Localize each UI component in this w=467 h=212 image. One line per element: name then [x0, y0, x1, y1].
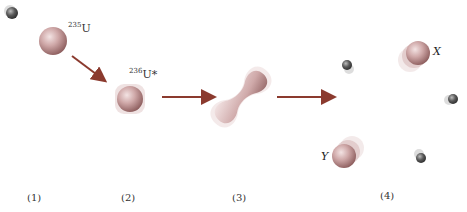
fragment-x-label: X — [433, 45, 441, 58]
u236-excited-nucleus — [115, 84, 145, 114]
step-label-3: (3) — [232, 192, 246, 203]
u236-symbol: U* — [142, 68, 157, 81]
u235-nucleus — [39, 27, 67, 55]
fragment-x — [398, 41, 430, 72]
step-label-4: (4) — [380, 190, 394, 201]
u236-label: 236U* — [129, 67, 157, 81]
incoming-neutron — [4, 5, 18, 19]
emitted-neutron-2 — [444, 94, 458, 105]
u236-mass-number: 236 — [129, 67, 142, 75]
fragment-y — [332, 136, 364, 168]
step-label-2: (2) — [121, 192, 135, 203]
u235-symbol: U — [81, 22, 90, 35]
u235-mass-number: 235 — [68, 21, 81, 29]
step-label-1: (1) — [27, 192, 41, 203]
arrow-1 — [72, 56, 104, 80]
emitted-neutron-1 — [342, 60, 354, 74]
u235-label: 235U — [68, 21, 91, 35]
fragment-y-label: Y — [321, 150, 328, 163]
emitted-neutron-3 — [414, 149, 426, 163]
deformed-nucleus — [206, 62, 277, 133]
